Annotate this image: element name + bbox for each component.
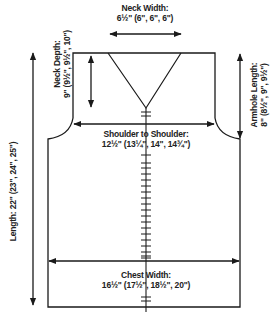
length-title: Length: [8,212,18,242]
chest-width-title: Chest Width: [91,270,201,280]
chest-width-label: Chest Width: 16½" (17½", 18½", 20") [91,270,201,290]
chest-width-value: 16½" (17½", 18½", 20") [91,280,201,290]
shoulder-title: Shoulder to Shoulder: [91,129,201,139]
armhole-length-title: Armhole Length: [249,45,259,145]
v-neck-line [108,53,181,108]
armhole-length-label: Armhole Length: 8" (8½", 9", 9½") [249,45,271,145]
shoulder-label: Shoulder to Shoulder: 12½" (13¼", 14", 1… [91,129,201,149]
neck-depth-title: Neck Depth: [52,14,62,114]
neck-width-label: Neck Width: 6½" (6", 6", 6") [95,3,195,23]
armhole-length-value: 8" (8½", 9", 9½") [259,45,269,145]
shoulder-value: 12½" (13¼", 14", 14¾") [91,139,201,149]
neck-depth-label: Neck Depth: 9" (9½", 9½", 10") [52,14,74,114]
neck-width-value: 6½" (6", 6", 6") [95,13,195,23]
neck-width-title: Neck Width: [95,3,195,13]
length-label: Length: 22" (23", 24", 25") [8,137,19,247]
length-value: 22" (23", 24", 25") [8,142,18,210]
neck-depth-value: 9" (9½", 9½", 10") [62,14,72,114]
